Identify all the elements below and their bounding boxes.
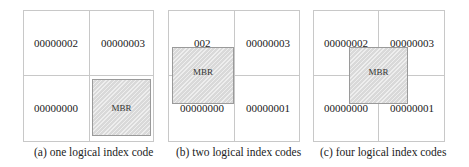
mbr-b-label: MBR	[193, 67, 213, 77]
cell-a-top-right: 00000003	[101, 37, 145, 49]
cell-a-bottom-left: 00000000	[34, 102, 78, 114]
mbr-a-label: MBR	[111, 103, 131, 113]
caption-a: (a) one logical index code	[34, 146, 153, 158]
grid-a-horizontal-divider	[23, 75, 154, 76]
caption-b: (b) two logical index codes	[176, 146, 301, 158]
cell-b-bottom-left: 00000000	[180, 102, 224, 114]
cell-c-top-right: 00000003	[390, 37, 434, 49]
mbr-a: MBR	[92, 79, 151, 136]
cell-c-bottom-right: 00000001	[390, 102, 434, 114]
cell-b-top-right: 00000003	[246, 37, 290, 49]
mbr-c-label: MBR	[368, 67, 388, 77]
cell-c-top-left: 00000002	[324, 37, 368, 49]
mbr-c: MBR	[349, 47, 408, 104]
mbr-b: MBR	[172, 47, 234, 104]
caption-c: (c) four logical index codes	[320, 146, 446, 158]
grid-a-vertical-divider	[89, 10, 90, 142]
cell-c-bottom-left: 00000000	[324, 102, 368, 114]
cell-a-top-left: 00000002	[34, 37, 78, 49]
cell-b-bottom-right: 00000001	[246, 102, 290, 114]
grid-b-vertical-divider	[234, 10, 235, 142]
